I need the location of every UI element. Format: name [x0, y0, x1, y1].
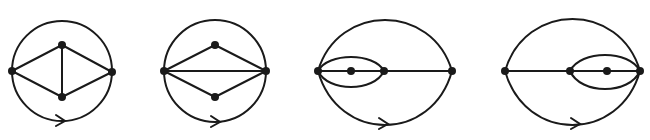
vertex-dot: [566, 67, 574, 75]
vertex-dot: [314, 67, 322, 75]
graph-edge: [12, 71, 62, 97]
graph-edge: [62, 45, 112, 72]
diagram-canvas: [0, 0, 650, 140]
vertex-dot: [448, 67, 456, 75]
graph-edge: [62, 72, 112, 97]
orientation-arrow-icon: [379, 118, 388, 129]
vertex-dot: [58, 93, 66, 101]
graph-edge: [164, 71, 215, 97]
vertex-dot: [603, 67, 611, 75]
graph-edge: [164, 45, 215, 71]
graph-edge: [215, 71, 266, 97]
vertex-dot: [501, 67, 509, 75]
graph-edge: [215, 45, 266, 71]
diagram-4: [501, 19, 644, 129]
vertex-dot: [211, 93, 219, 101]
diagram-1: [8, 21, 116, 126]
vertex-dot: [347, 67, 355, 75]
vertex-dot: [262, 67, 270, 75]
vertex-dot: [58, 41, 66, 49]
vertex-dot: [108, 68, 116, 76]
vertex-dot: [636, 67, 644, 75]
vertex-dot: [211, 41, 219, 49]
graph-edge: [12, 45, 62, 71]
vertex-dot: [160, 67, 168, 75]
vertex-dot: [380, 67, 388, 75]
vertex-dot: [8, 67, 16, 75]
orientation-arrow-icon: [571, 118, 580, 129]
diagram-2: [160, 20, 270, 127]
diagram-3: [314, 20, 456, 129]
